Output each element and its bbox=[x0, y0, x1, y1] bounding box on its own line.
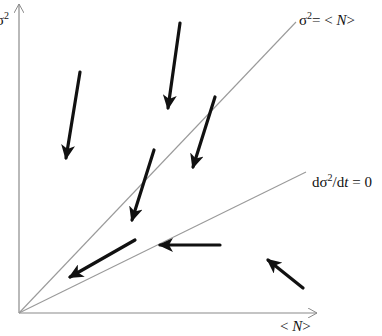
steady-label-mid: /d bbox=[333, 174, 345, 190]
x-axis-label-close: > bbox=[302, 318, 310, 334]
flow-arrow-2 bbox=[168, 23, 180, 108]
steady-state-line bbox=[19, 172, 306, 313]
y-axis-label: σ2 bbox=[0, 11, 9, 28]
steady-label-pre: dσ bbox=[312, 174, 328, 190]
poisson-label-base: σ bbox=[299, 12, 307, 28]
poisson-label-var: N bbox=[337, 12, 347, 28]
poisson-line bbox=[19, 22, 296, 313]
poisson-label-eq: = < bbox=[312, 12, 336, 28]
flow-arrow-3 bbox=[193, 97, 215, 167]
flow-arrow-1 bbox=[66, 72, 80, 158]
poisson-label-close: > bbox=[347, 12, 355, 28]
steady-state-line-label: dσ2/dt = 0 bbox=[312, 173, 372, 190]
steady-label-post: = 0 bbox=[348, 174, 371, 190]
x-axis-label-var: N bbox=[292, 318, 302, 334]
y-axis-label-exp: 2 bbox=[4, 10, 9, 21]
x-axis-label: < N> bbox=[280, 319, 311, 334]
flow-arrows bbox=[66, 23, 303, 288]
flow-arrow-4 bbox=[132, 150, 154, 220]
flow-arrow-7 bbox=[268, 260, 303, 288]
diagram-canvas bbox=[0, 0, 382, 336]
x-axis-label-open: < bbox=[280, 318, 292, 334]
poisson-line-label: σ2= < N> bbox=[299, 11, 355, 28]
